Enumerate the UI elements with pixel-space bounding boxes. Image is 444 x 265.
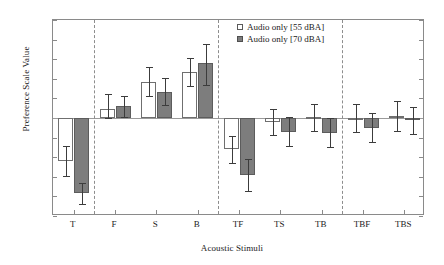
legend-item: Audio only [70 dBA] xyxy=(237,33,324,45)
error-bar-cap xyxy=(187,58,194,59)
y-tick-mark xyxy=(419,216,423,217)
x-tick-mark xyxy=(404,210,405,214)
y-tick-mark xyxy=(419,59,423,60)
x-tick-label: S xyxy=(133,220,177,229)
error-bar xyxy=(66,146,67,175)
y-tick-mark xyxy=(419,79,423,80)
bar-chart-figure: Preference Scale Value Acoustic Stimuli … xyxy=(0,0,444,265)
legend-swatch-icon xyxy=(237,24,243,30)
error-bar-cap xyxy=(146,96,153,97)
error-bar xyxy=(149,67,150,96)
x-tick-mark xyxy=(156,210,157,214)
x-tick-label: TS xyxy=(257,220,301,229)
x-tick-mark xyxy=(115,210,116,214)
x-tick-label: T xyxy=(51,220,95,229)
y-tick-mark xyxy=(53,98,57,99)
error-bar xyxy=(82,183,83,205)
error-bar-cap xyxy=(311,104,318,105)
plot-area xyxy=(52,19,424,215)
error-bar-cap xyxy=(327,118,334,119)
error-bar xyxy=(232,136,233,163)
y-tick-mark xyxy=(419,138,423,139)
y-tick-mark xyxy=(419,196,423,197)
error-bar xyxy=(206,44,207,85)
legend-swatch-icon xyxy=(237,36,243,42)
x-tick-label: TBF xyxy=(340,220,384,229)
error-bar-cap xyxy=(187,86,194,87)
x-tick-mark xyxy=(363,210,364,214)
y-tick-mark xyxy=(419,40,423,41)
y-tick-mark xyxy=(53,157,57,158)
error-bar-cap xyxy=(105,118,112,119)
legend: Audio only [55 dBA]Audio only [70 dBA] xyxy=(237,21,324,45)
error-bar xyxy=(190,58,191,85)
error-bar-cap xyxy=(394,101,401,102)
error-bar xyxy=(356,104,357,131)
legend-label: Audio only [55 dBA] xyxy=(247,21,324,33)
y-tick-mark xyxy=(419,157,423,158)
x-tick-label: TF xyxy=(216,220,260,229)
y-tick-mark xyxy=(53,20,57,21)
y-tick-mark xyxy=(53,138,57,139)
error-bar-cap xyxy=(245,159,252,160)
y-tick-mark xyxy=(53,59,57,60)
legend-label: Audio only [70 dBA] xyxy=(247,33,324,45)
error-bar-cap xyxy=(286,117,293,118)
x-tick-mark xyxy=(322,210,323,214)
error-bar-cap xyxy=(121,96,128,97)
error-bar xyxy=(397,101,398,130)
error-bar-cap xyxy=(121,117,128,118)
group-divider xyxy=(94,20,95,214)
group-divider xyxy=(218,20,219,214)
error-bar-cap xyxy=(245,191,252,192)
error-bar-cap xyxy=(162,78,169,79)
x-tick-mark xyxy=(198,210,199,214)
error-bar-cap xyxy=(327,147,334,148)
error-bar-cap xyxy=(353,132,360,133)
error-bar-cap xyxy=(63,176,70,177)
group-divider xyxy=(342,20,343,214)
error-bar-cap xyxy=(410,107,417,108)
error-bar xyxy=(165,78,166,105)
x-tick-label: TBS xyxy=(381,220,425,229)
error-bar-cap xyxy=(270,135,277,136)
error-bar xyxy=(108,94,109,118)
y-tick-mark xyxy=(419,98,423,99)
y-axis-title: Preference Scale Value xyxy=(21,0,31,179)
error-bar-cap xyxy=(353,104,360,105)
x-axis-title: Acoustic Stimuli xyxy=(40,243,424,253)
error-bar-cap xyxy=(229,136,236,137)
error-bar-cap xyxy=(229,163,236,164)
error-bar xyxy=(314,104,315,130)
y-tick-mark xyxy=(53,196,57,197)
error-bar-cap xyxy=(369,113,376,114)
x-tick-label: TB xyxy=(299,220,343,229)
legend-item: Audio only [55 dBA] xyxy=(237,21,324,33)
error-bar xyxy=(248,159,249,190)
error-bar xyxy=(273,109,274,134)
y-tick-mark xyxy=(53,40,57,41)
y-tick-mark xyxy=(53,216,57,217)
error-bar xyxy=(330,118,331,147)
error-bar-cap xyxy=(79,183,86,184)
error-bar-cap xyxy=(203,85,210,86)
y-tick-mark xyxy=(53,79,57,80)
error-bar xyxy=(124,96,125,117)
error-bar xyxy=(372,113,373,141)
error-bar-cap xyxy=(394,131,401,132)
error-bar-cap xyxy=(410,134,417,135)
error-bar-cap xyxy=(105,94,112,95)
error-bar xyxy=(289,117,290,146)
x-tick-mark xyxy=(239,210,240,214)
error-bar-cap xyxy=(146,67,153,68)
y-tick-mark xyxy=(419,20,423,21)
error-bar-cap xyxy=(270,109,277,110)
error-bar-cap xyxy=(311,131,318,132)
x-tick-label: F xyxy=(92,220,136,229)
error-bar-cap xyxy=(63,146,70,147)
x-tick-label: B xyxy=(175,220,219,229)
error-bar-cap xyxy=(79,204,86,205)
y-tick-mark xyxy=(53,177,57,178)
error-bar-cap xyxy=(369,142,376,143)
x-tick-mark xyxy=(280,210,281,214)
